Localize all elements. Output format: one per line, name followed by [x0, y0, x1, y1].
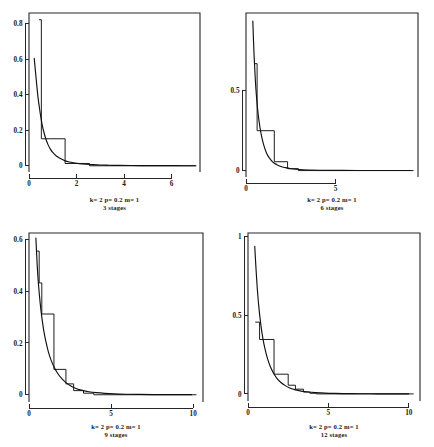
- x-tick-label: 2: [75, 180, 79, 188]
- y-tick-label: 0: [238, 391, 242, 399]
- x-tick-label: 10: [190, 410, 198, 418]
- y-tick-label: 0.5: [233, 312, 242, 320]
- y-tick-label: 0.5: [231, 87, 240, 95]
- chart-svg-3: 00.20.40.60510k= 2 p= 0.2 m= 19 stages: [0, 224, 217, 447]
- y-tick-label: 1: [238, 233, 242, 241]
- chart-panel-3: 00.20.40.60510k= 2 p= 0.2 m= 19 stages: [0, 224, 217, 447]
- y-tick-label: 0.4: [14, 91, 23, 99]
- stage-step-function: [36, 251, 196, 395]
- x-tick-label: 0: [246, 409, 250, 417]
- y-tick-label: 0.2: [14, 340, 23, 348]
- x-tick-label: 4: [122, 180, 126, 188]
- panel-caption-params: k= 2 p= 0.2 m= 1: [90, 196, 140, 203]
- y-tick-label: 0.4: [14, 288, 23, 296]
- panel-caption-params: k= 2 p= 0.2 m= 1: [309, 423, 359, 430]
- y-tick-label: 0.8: [14, 20, 23, 28]
- chart-svg-1: 00.20.40.60.80246k= 2 p= 0.2 m= 13 stage…: [0, 0, 217, 224]
- y-tick-label: 0: [19, 391, 23, 399]
- chart-panel-2: 00.505k= 2 p= 0.2 m= 16 stages: [217, 0, 434, 224]
- panel-caption-stages: 3 stages: [103, 204, 126, 211]
- y-tick-label: 0.6: [14, 56, 23, 64]
- figure-panel-grid: 00.20.40.60.80246k= 2 p= 0.2 m= 13 stage…: [0, 0, 434, 447]
- y-tick-label: 0: [236, 167, 240, 175]
- stage-step-function: [39, 20, 196, 166]
- panel-caption-stages: 9 stages: [105, 431, 128, 438]
- x-tick-label: 6: [170, 180, 174, 188]
- chart-panel-1: 00.20.40.60.80246k= 2 p= 0.2 m= 13 stage…: [0, 0, 217, 224]
- chart-svg-2: 00.505k= 2 p= 0.2 m= 16 stages: [217, 0, 434, 224]
- density-curve: [34, 58, 195, 165]
- x-tick-label: 5: [334, 185, 338, 193]
- density-curve: [253, 21, 411, 171]
- x-tick-label: 10: [405, 409, 413, 417]
- stage-step-function: [255, 64, 414, 171]
- y-tick-label: 0: [19, 162, 23, 170]
- y-tick-label: 0.6: [14, 236, 23, 244]
- panel-caption-params: k= 2 p= 0.2 m= 1: [307, 196, 357, 203]
- chart-panel-4: 00.510510k= 2 p= 0.2 m= 112 stages: [217, 224, 434, 447]
- x-tick-label: 0: [27, 410, 31, 418]
- y-tick-label: 0.2: [14, 127, 23, 135]
- panel-caption-stages: 12 stages: [321, 431, 348, 438]
- x-tick-label: 0: [27, 180, 31, 188]
- x-tick-label: 5: [109, 410, 113, 418]
- x-tick-label: 5: [327, 409, 331, 417]
- panel-caption-params: k= 2 p= 0.2 m= 1: [91, 423, 141, 430]
- density-curve: [255, 246, 409, 393]
- stage-step-function: [255, 322, 413, 394]
- x-tick-label: 0: [244, 185, 248, 193]
- chart-svg-4: 00.510510k= 2 p= 0.2 m= 112 stages: [217, 224, 434, 447]
- density-curve: [36, 238, 192, 395]
- panel-caption-stages: 6 stages: [321, 204, 344, 211]
